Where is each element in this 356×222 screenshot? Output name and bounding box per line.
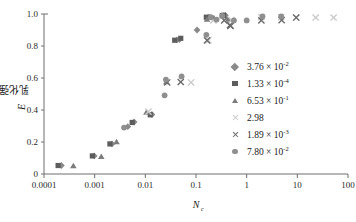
x-tick-label: 100 bbox=[341, 180, 355, 190]
y-tick-label: 0.8 bbox=[27, 41, 39, 51]
data-point-series-4 bbox=[293, 14, 299, 20]
y-tick-label: 1.0 bbox=[27, 9, 39, 19]
x-tick-label: 10 bbox=[293, 180, 303, 190]
data-point-series-1 bbox=[130, 120, 135, 125]
legend-marker-cross-icon bbox=[228, 111, 242, 125]
y-tick-label: 0.2 bbox=[27, 137, 38, 147]
data-point-series-5 bbox=[214, 17, 220, 23]
legend-marker-cross-icon bbox=[228, 128, 242, 142]
y-axis-title-text: 乳化强度 bbox=[0, 83, 29, 98]
legend-marker-diamond-icon bbox=[228, 60, 242, 74]
legend-label-4: 1.89 × 10-3 bbox=[242, 128, 289, 140]
data-point-series-5 bbox=[244, 18, 250, 24]
y-tick-label: 0 bbox=[34, 169, 39, 179]
legend: 3.76 × 10-21.33 × 10-46.53 × 10-12.981.8… bbox=[228, 58, 352, 160]
legend-item-0: 3.76 × 10-2 bbox=[228, 58, 352, 75]
y-tick-label: 0.4 bbox=[27, 105, 39, 115]
x-tick-label: 0.001 bbox=[85, 180, 105, 190]
legend-item-1: 1.33 × 10-4 bbox=[228, 75, 352, 92]
y-axis-title: 乳化强度E bbox=[6, 0, 22, 180]
y-axis-title-symbol: E bbox=[16, 104, 27, 110]
data-point-series-1 bbox=[178, 36, 183, 41]
x-tick-label: 0.01 bbox=[137, 180, 153, 190]
y-tick-label: 0.6 bbox=[27, 73, 39, 83]
legend-marker-square-icon bbox=[228, 77, 242, 91]
data-point-series-5 bbox=[278, 14, 284, 20]
data-point-series-3 bbox=[331, 14, 337, 20]
data-point-series-2 bbox=[98, 154, 105, 159]
data-point-series-2 bbox=[70, 163, 77, 168]
data-point-series-5 bbox=[179, 74, 185, 80]
x-axis-title-text: N bbox=[192, 199, 201, 210]
data-point-series-5 bbox=[219, 13, 225, 19]
legend-label-0: 3.76 × 10-2 bbox=[242, 60, 289, 72]
data-point-series-1 bbox=[56, 163, 61, 168]
data-point-series-0 bbox=[194, 27, 201, 34]
legend-label-1: 1.33 × 10-4 bbox=[242, 77, 289, 89]
legend-item-2: 6.53 × 10-1 bbox=[228, 92, 352, 109]
data-point-series-3 bbox=[313, 14, 319, 20]
x-tick-label: 1 bbox=[244, 180, 249, 190]
legend-marker-circle-icon bbox=[228, 145, 242, 159]
data-point-series-1 bbox=[172, 38, 177, 43]
legend-item-5: 7.80 × 10-2 bbox=[228, 143, 352, 160]
legend-item-4: 1.89 × 10-3 bbox=[228, 126, 352, 143]
x-tick-label: 0.1 bbox=[190, 180, 201, 190]
data-point-series-1 bbox=[90, 153, 95, 158]
data-point-series-2 bbox=[113, 139, 120, 144]
data-point-series-5 bbox=[203, 32, 209, 38]
data-point-series-5 bbox=[163, 77, 169, 83]
data-point-series-3 bbox=[188, 79, 194, 85]
legend-label-2: 6.53 × 10-1 bbox=[242, 94, 289, 106]
data-point-series-5 bbox=[162, 92, 168, 98]
legend-label-3: 2.98 bbox=[242, 113, 264, 123]
x-axis-title: Nc bbox=[192, 199, 204, 212]
chart-figure: 00.20.40.60.81.00.00010.0010.010.1110100… bbox=[0, 0, 356, 222]
legend-marker-triangle-icon bbox=[228, 94, 242, 108]
data-point-series-4 bbox=[178, 79, 184, 85]
data-point-series-5 bbox=[260, 14, 266, 20]
legend-label-5: 7.80 × 10-2 bbox=[242, 145, 289, 157]
legend-item-3: 2.98 bbox=[228, 109, 352, 126]
data-point-series-5 bbox=[208, 14, 214, 20]
data-point-series-5 bbox=[231, 18, 237, 24]
data-point-series-1 bbox=[107, 141, 112, 146]
x-axis-title-subscript: c bbox=[201, 206, 204, 212]
x-tick-label: 0.0001 bbox=[32, 180, 57, 190]
data-point-series-5 bbox=[121, 125, 127, 131]
